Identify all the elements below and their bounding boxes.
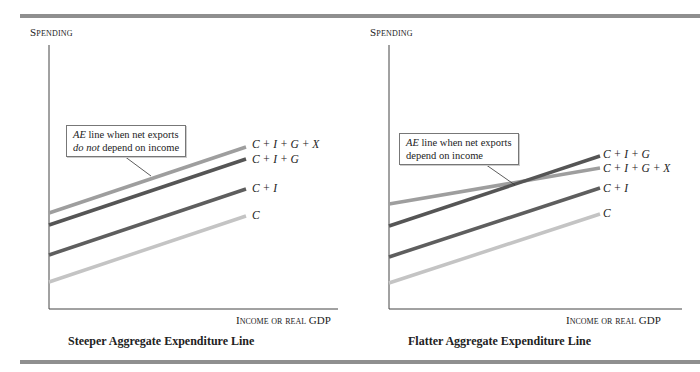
anno-text2: depend on income bbox=[406, 149, 512, 162]
left-line-cig bbox=[49, 159, 246, 225]
right-label-ci: C + I bbox=[603, 182, 628, 194]
left-x-label: Income or real GDP bbox=[236, 314, 331, 326]
right-label-c: C bbox=[603, 207, 611, 219]
left-line-c bbox=[49, 216, 246, 282]
right-line-c bbox=[389, 214, 600, 283]
left-label-c: C bbox=[252, 209, 260, 221]
anno-em: AE bbox=[406, 137, 419, 148]
anno-em2: do not bbox=[73, 142, 100, 153]
left-line-ci bbox=[49, 189, 246, 255]
left-caption: Steeper Aggregate Expenditure Line bbox=[68, 334, 254, 349]
anno-text: line when net exports bbox=[419, 137, 512, 148]
right-annotation: AE line when net exports depend on incom… bbox=[399, 133, 519, 165]
anno-em: AE bbox=[73, 129, 86, 140]
right-y-label: Spending bbox=[370, 26, 413, 38]
anno-text2: depend on income bbox=[100, 142, 180, 153]
right-caption: Flatter Aggregate Expenditure Line bbox=[408, 334, 591, 349]
left-label-cigx: C + I + G + X bbox=[252, 138, 319, 150]
anno-text: line when net exports bbox=[86, 129, 179, 140]
left-annotation: AE line when net exports do not depend o… bbox=[66, 125, 186, 157]
left-label-ci: C + I bbox=[252, 182, 277, 194]
right-x-label: Income or real GDP bbox=[566, 314, 661, 326]
left-label-cig: C + I + G bbox=[252, 153, 299, 165]
left-y-label: Spending bbox=[30, 26, 73, 38]
right-anno-pointer bbox=[482, 162, 515, 185]
right-line-cig bbox=[389, 156, 600, 226]
right-label-cig: C + I + G bbox=[603, 148, 650, 160]
right-label-cigx: C + I + G + X bbox=[603, 162, 670, 174]
